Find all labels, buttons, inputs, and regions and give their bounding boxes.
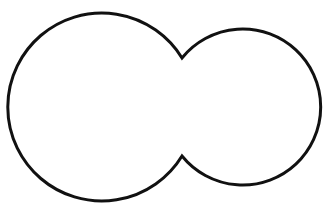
- two-circle-union-diagram: [0, 0, 323, 210]
- circle-union-outline: [8, 13, 321, 201]
- diagram-canvas: [0, 0, 323, 210]
